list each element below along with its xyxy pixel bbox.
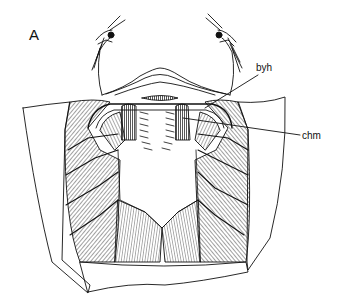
- right-inner-muscle: [195, 112, 220, 150]
- mouthpart-plate: [142, 96, 178, 101]
- anatomical-drawing: [0, 0, 344, 305]
- panel-label: A: [29, 27, 39, 42]
- left-antenna: [92, 16, 125, 70]
- central-strokes: [140, 112, 174, 150]
- label-byh: byh: [256, 63, 272, 73]
- left-inner-muscle: [100, 112, 125, 150]
- left-column-muscle: [122, 104, 136, 140]
- label-chm: chm: [302, 131, 321, 141]
- right-antenna: [206, 14, 242, 72]
- right-column-muscle: [176, 104, 190, 140]
- posterior-margin: [80, 262, 248, 292]
- central-fan-right: [162, 200, 200, 262]
- head-capsule: [98, 38, 233, 95]
